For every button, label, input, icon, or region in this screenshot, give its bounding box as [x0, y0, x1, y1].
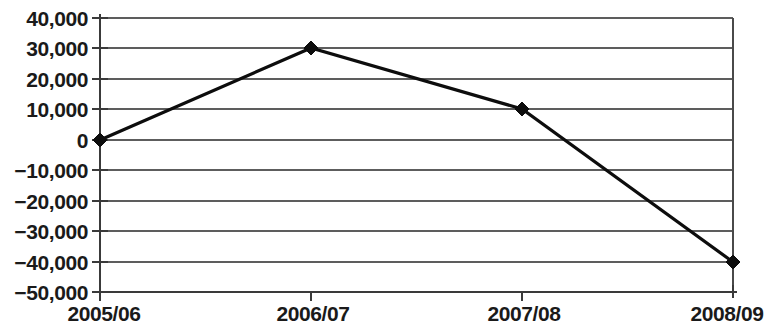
chart-canvas: 40,000 30,000 20,000 10,000 0 −10,000 −2…	[0, 0, 772, 326]
y-tick-label-minus-20000: −20,000	[14, 190, 88, 213]
x-tick-label-2006-07: 2006/07	[276, 302, 349, 325]
x-tick-label-2005-06: 2005/06	[67, 302, 140, 325]
y-tick-label-minus-30000: −30,000	[14, 220, 88, 243]
y-tick-label-30000: 30,000	[26, 37, 88, 60]
y-tick-label-10000: 10,000	[26, 98, 88, 121]
x-tick-label-2007-08: 2007/08	[487, 302, 561, 325]
y-tick-label-minus-50000: −50,000	[14, 281, 88, 304]
y-tick-label-40000: 40,000	[26, 7, 88, 30]
line-chart: 40,000 30,000 20,000 10,000 0 −10,000 −2…	[0, 0, 772, 326]
x-tick-label-2008-09: 2008/09	[690, 302, 763, 325]
y-tick-label-minus-40000: −40,000	[14, 251, 88, 274]
y-tick-label-20000: 20,000	[26, 68, 88, 91]
y-tick-label-0: 0	[77, 129, 88, 152]
chart-background	[0, 0, 772, 326]
y-tick-label-minus-10000: −10,000	[14, 159, 88, 182]
